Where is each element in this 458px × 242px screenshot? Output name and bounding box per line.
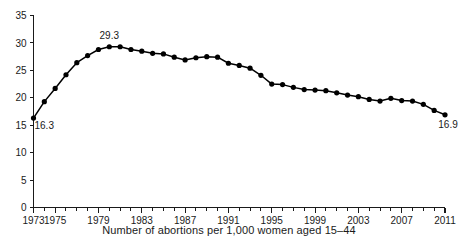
y-tick-label: 20 (15, 92, 27, 103)
y-tick-label: 15 (15, 120, 27, 131)
series-data-point (215, 55, 220, 60)
series-data-point (421, 102, 426, 107)
series-data-point (172, 55, 177, 60)
y-tick-label: 25 (15, 65, 27, 76)
x-axis-group: 1973197519791983198719911995199920032007… (22, 208, 456, 226)
series-data-point (432, 108, 437, 113)
series-data-point (96, 47, 101, 52)
series-data-point (118, 44, 123, 49)
series-data-point (226, 61, 231, 66)
annotation-group: 16.329.316.9 (35, 30, 458, 131)
series-data-point (107, 44, 112, 49)
series-data-point (63, 72, 68, 77)
y-tick-label: 10 (15, 147, 27, 158)
line-chart-plot: 05101520253035 1973197519791983198719911… (0, 0, 458, 242)
series-data-point (312, 88, 317, 93)
series-data-point (258, 73, 263, 78)
series-data-point (280, 82, 285, 87)
chart-figure: 05101520253035 1973197519791983198719911… (0, 0, 458, 242)
series-data-point (269, 81, 274, 86)
series-data-point (139, 49, 144, 54)
y-tick-label: 35 (15, 10, 27, 21)
series-data-point (247, 66, 252, 71)
series-data-point (388, 96, 393, 101)
series-data-point (291, 85, 296, 90)
y-axis-group: 05101520253035 (15, 10, 33, 213)
series-data-point (204, 54, 209, 59)
y-tick-label: 5 (21, 175, 27, 186)
series-data-point (345, 92, 350, 97)
series-data-point (399, 98, 404, 103)
series-data-point (302, 87, 307, 92)
series-data-point (334, 90, 339, 95)
series-data-point (442, 112, 447, 117)
series-data-point (150, 51, 155, 56)
y-tick-label: 30 (15, 38, 27, 49)
series-line-abortion-rate (34, 47, 446, 118)
series-group (31, 44, 448, 121)
series-data-point (42, 99, 47, 104)
series-data-point (183, 57, 188, 62)
series-data-point (237, 63, 242, 68)
data-point-annotation: 16.3 (35, 120, 55, 131)
series-data-point (377, 98, 382, 103)
series-data-point (53, 86, 58, 91)
series-data-point (128, 47, 133, 52)
series-data-point (161, 51, 166, 56)
series-data-point (85, 53, 90, 58)
series-data-point (410, 98, 415, 103)
series-data-point (193, 55, 198, 60)
series-data-point (356, 94, 361, 99)
series-data-point (367, 97, 372, 102)
y-tick-label: 0 (21, 202, 27, 213)
data-point-annotation: 29.3 (100, 30, 120, 41)
chart-caption: Number of abortions per 1,000 women aged… (0, 224, 458, 236)
series-data-point (74, 60, 79, 65)
series-data-point (323, 88, 328, 93)
data-point-annotation: 16.9 (438, 119, 458, 130)
